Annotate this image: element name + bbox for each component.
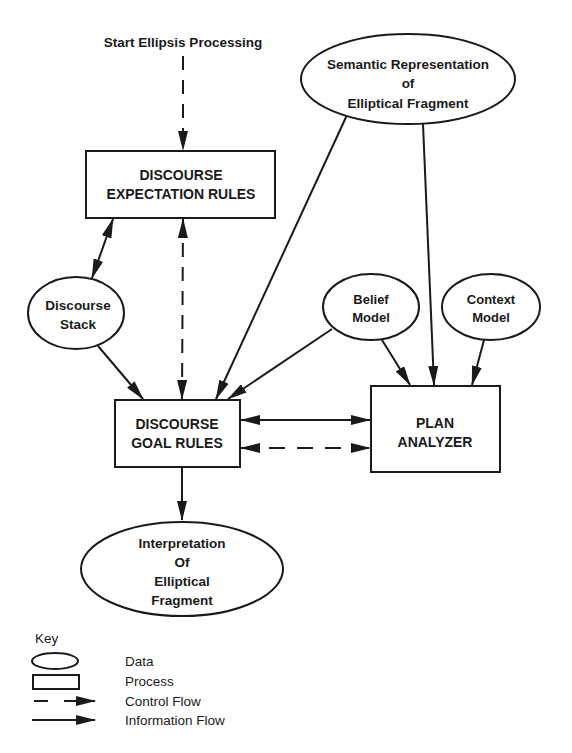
node-interpretation: Interpretation Of Elliptical Fragment (81, 522, 283, 616)
legend: Key Data Process Control Flow Informatio… (32, 631, 225, 728)
legend-data-label: Data (125, 654, 154, 669)
plan-line-1: PLAN (416, 415, 454, 431)
legend-rectangle-icon (33, 675, 79, 689)
goal-line-2: GOAL RULES (131, 435, 223, 451)
interpretation-line-3: Elliptical (154, 574, 210, 589)
node-expectation-rules: DISCOURSE EXPECTATION RULES (86, 151, 275, 218)
node-goal-rules: DISCOURSE GOAL RULES (115, 400, 240, 467)
legend-process-label: Process (125, 674, 174, 689)
semantic-line-2: of (402, 76, 415, 91)
node-semantic-representation: Semantic Representation of Elliptical Fr… (301, 34, 515, 124)
edge-expectation-stack (92, 219, 113, 278)
legend-information-flow-label: Information Flow (125, 713, 225, 728)
semantic-line-3: Elliptical Fragment (348, 96, 469, 111)
ellipsis-processing-diagram: Start Ellipsis Processing DISCOURSE EXPE… (0, 0, 572, 753)
expectation-line-1: DISCOURSE (139, 167, 222, 183)
legend-control-flow-label: Control Flow (125, 694, 201, 709)
legend-ellipse-icon (32, 653, 78, 669)
context-line-1: Context (467, 292, 516, 307)
node-discourse-stack: Discourse Stack (28, 277, 124, 349)
interpretation-line-4: Fragment (151, 593, 213, 608)
semantic-line-1: Semantic Representation (327, 57, 489, 72)
edge-belief-plan (382, 340, 410, 385)
stack-line-1: Discourse (45, 298, 111, 313)
node-belief-model: Belief Model (323, 274, 419, 340)
edge-semantic-plan (423, 124, 434, 385)
edge-stack-goal (98, 346, 143, 399)
node-context-model: Context Model (442, 274, 540, 340)
node-plan-analyzer: PLAN ANALYZER (371, 386, 500, 472)
belief-line-1: Belief (353, 292, 389, 307)
interpretation-line-1: Interpretation (138, 536, 225, 551)
stack-line-2: Stack (60, 317, 97, 332)
context-line-2: Model (472, 310, 510, 325)
legend-title: Key (35, 631, 59, 646)
start-label: Start Ellipsis Processing (104, 35, 262, 50)
goal-line-1: DISCOURSE (135, 416, 218, 432)
expectation-line-2: EXPECTATION RULES (107, 186, 256, 202)
interpretation-line-2: Of (175, 555, 191, 570)
edge-expectation-goal (182, 219, 183, 399)
plan-line-2: ANALYZER (398, 434, 473, 450)
belief-line-2: Model (352, 310, 390, 325)
edge-context-plan (472, 340, 484, 385)
